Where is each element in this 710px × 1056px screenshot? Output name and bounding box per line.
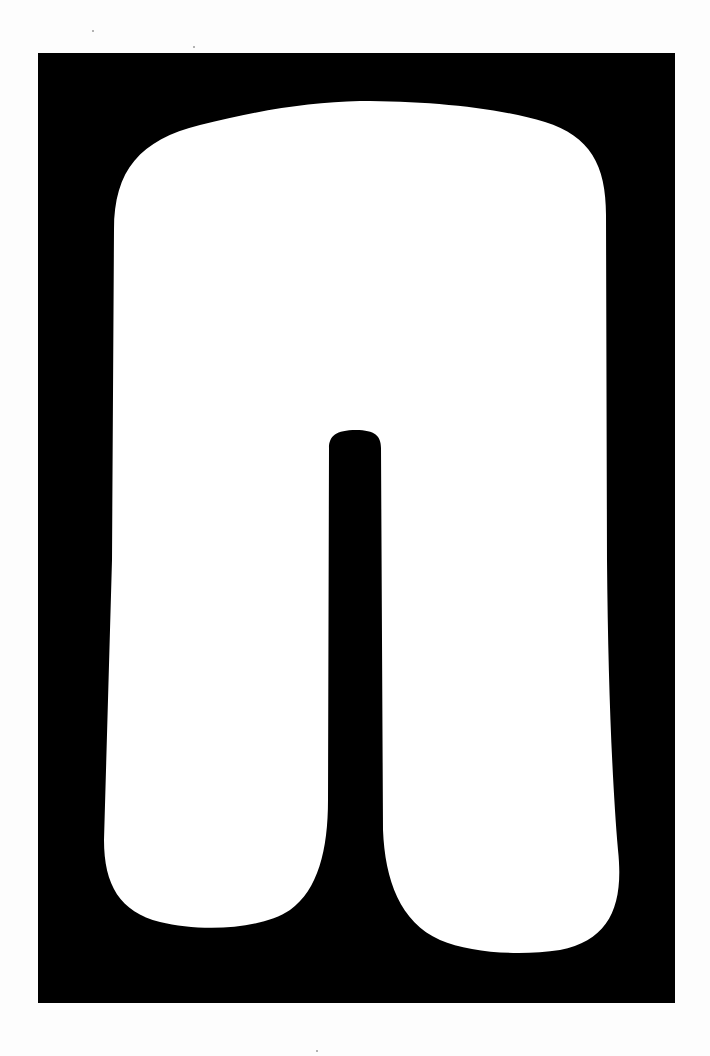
- scan-speck: [316, 1050, 318, 1052]
- abstract-artwork: [0, 0, 710, 1056]
- scan-speck: [193, 46, 195, 48]
- scanned-page: [0, 0, 710, 1056]
- scan-speck: [92, 30, 94, 32]
